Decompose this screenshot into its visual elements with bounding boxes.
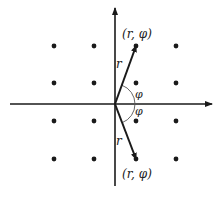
lattice-point — [92, 81, 97, 86]
angle-label-upper: φ — [135, 89, 143, 100]
lattice-point — [92, 157, 97, 162]
lattice-point — [52, 157, 57, 162]
point-label-upper: (r, φ) — [122, 28, 152, 40]
lattice-point — [174, 119, 179, 124]
angle-arc-upper — [122, 85, 135, 104]
lattice-point — [52, 81, 57, 86]
length-label-upper: r — [116, 58, 122, 70]
lattice-point — [52, 119, 57, 124]
angle-arc-lower — [122, 104, 135, 123]
angle-label-lower: φ — [135, 106, 143, 117]
lattice-point — [174, 44, 179, 49]
point-label-lower: (r, φ) — [122, 168, 152, 180]
diagram-svg — [0, 0, 224, 197]
lattice-point — [134, 81, 139, 86]
lattice-point — [134, 119, 139, 124]
lattice-point — [174, 81, 179, 86]
lattice-point — [52, 44, 57, 49]
length-label-lower: r — [116, 135, 122, 147]
lattice-point — [92, 44, 97, 49]
lattice-point — [92, 119, 97, 124]
lattice-point — [174, 157, 179, 162]
polar-coordinates-diagram: (r, φ) r φ φ r (r, φ) — [0, 0, 224, 197]
